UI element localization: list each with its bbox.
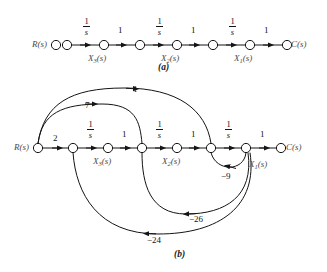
gain-b-one-second: 1	[191, 130, 196, 139]
gain-b-1-over-s-first: 1 s	[86, 120, 95, 139]
gain-b-arc-minus-twentyfour: −24	[147, 236, 161, 245]
gain-b-one-first: 1	[122, 130, 127, 139]
node-b-4	[137, 143, 146, 152]
label-a-x3-of-s: X3(s)	[88, 54, 106, 65]
gain-b-arc-minus-twentysix: −26	[189, 215, 203, 224]
node-b-6	[206, 143, 215, 152]
arc-b-gain-minus-26	[142, 153, 249, 214]
gain-a-1-over-s-first: 1 s	[82, 17, 91, 36]
gain-b-1-over-s-second: 1 s	[155, 120, 164, 139]
gain-a-one-second: 1	[191, 26, 196, 35]
node-a-x1	[245, 40, 254, 49]
arc-b-gain-minus-9	[211, 153, 246, 168]
label-a-c-of-s: C(s)	[291, 40, 307, 49]
node-b-x2	[172, 143, 181, 152]
node-a-x3	[99, 40, 108, 49]
gain-b-one-third: 1	[260, 130, 265, 139]
gain-a-one-first: 1	[118, 26, 123, 35]
node-a-3	[135, 40, 144, 49]
node-b-2	[68, 143, 77, 152]
gain-a-one-third: 1	[264, 26, 269, 35]
gain-a-1-over-s-third: 1 s	[228, 17, 237, 36]
node-b-r	[33, 143, 42, 152]
node-b-c	[276, 143, 285, 152]
gain-a-1-over-s-second: 1 s	[155, 17, 164, 36]
node-a-5	[208, 40, 217, 49]
gain-b-arc-one: 1	[133, 85, 138, 94]
label-b-x1-of-s: X1(s)	[249, 160, 267, 171]
panel-b-graph	[33, 88, 285, 234]
label-a-r-of-s: R(s)	[32, 40, 47, 49]
gain-b-arc-seven: 7	[85, 101, 90, 110]
label-b-r-of-s: R(s)	[14, 143, 29, 152]
label-a-x1-of-s: X1(s)	[234, 54, 252, 65]
caption-panel-b: (b)	[174, 250, 185, 260]
caption-panel-a: (a)	[158, 63, 169, 73]
node-a-1	[62, 40, 71, 49]
gain-b-1-over-s-third: 1 s	[224, 120, 233, 139]
label-b-x3-of-s: X3(s)	[93, 157, 111, 168]
node-b-x1	[241, 143, 250, 152]
label-b-x2-of-s: X2(s)	[162, 157, 180, 168]
signal-flow-graph-figure: R(s) C(s) X3(s) X2(s) X1(s) 1 s 1 1 s 1 …	[0, 0, 327, 272]
node-r-isolated	[51, 40, 60, 49]
node-a-x2	[172, 40, 181, 49]
panel-a-graph	[51, 40, 291, 49]
label-b-c-of-s: C(s)	[286, 143, 302, 152]
gain-b-arc-minus-nine: −9	[221, 172, 231, 181]
gain-b-two: 2	[53, 134, 58, 143]
node-b-x3	[103, 143, 112, 152]
